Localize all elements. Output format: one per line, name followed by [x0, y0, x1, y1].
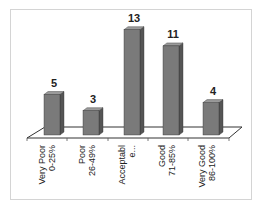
bar-4 — [203, 100, 223, 135]
data-label-0: 5 — [39, 77, 69, 89]
category-label-4: Very Good86-100% — [197, 145, 217, 203]
bar-1 — [83, 108, 103, 135]
data-label-4: 4 — [198, 85, 228, 97]
category-label-0: Very Poor0-25% — [37, 145, 57, 203]
bar-3 — [163, 43, 183, 135]
data-label-3: 11 — [158, 28, 188, 40]
category-label-2: Acceptable... — [117, 145, 137, 203]
bar-0 — [44, 92, 64, 136]
category-label-3: Good71-85% — [157, 145, 177, 203]
data-label-1: 3 — [78, 93, 108, 105]
bar-2 — [124, 27, 144, 135]
data-label-2: 13 — [119, 12, 149, 24]
category-label-1: Poor26-49% — [77, 145, 97, 203]
